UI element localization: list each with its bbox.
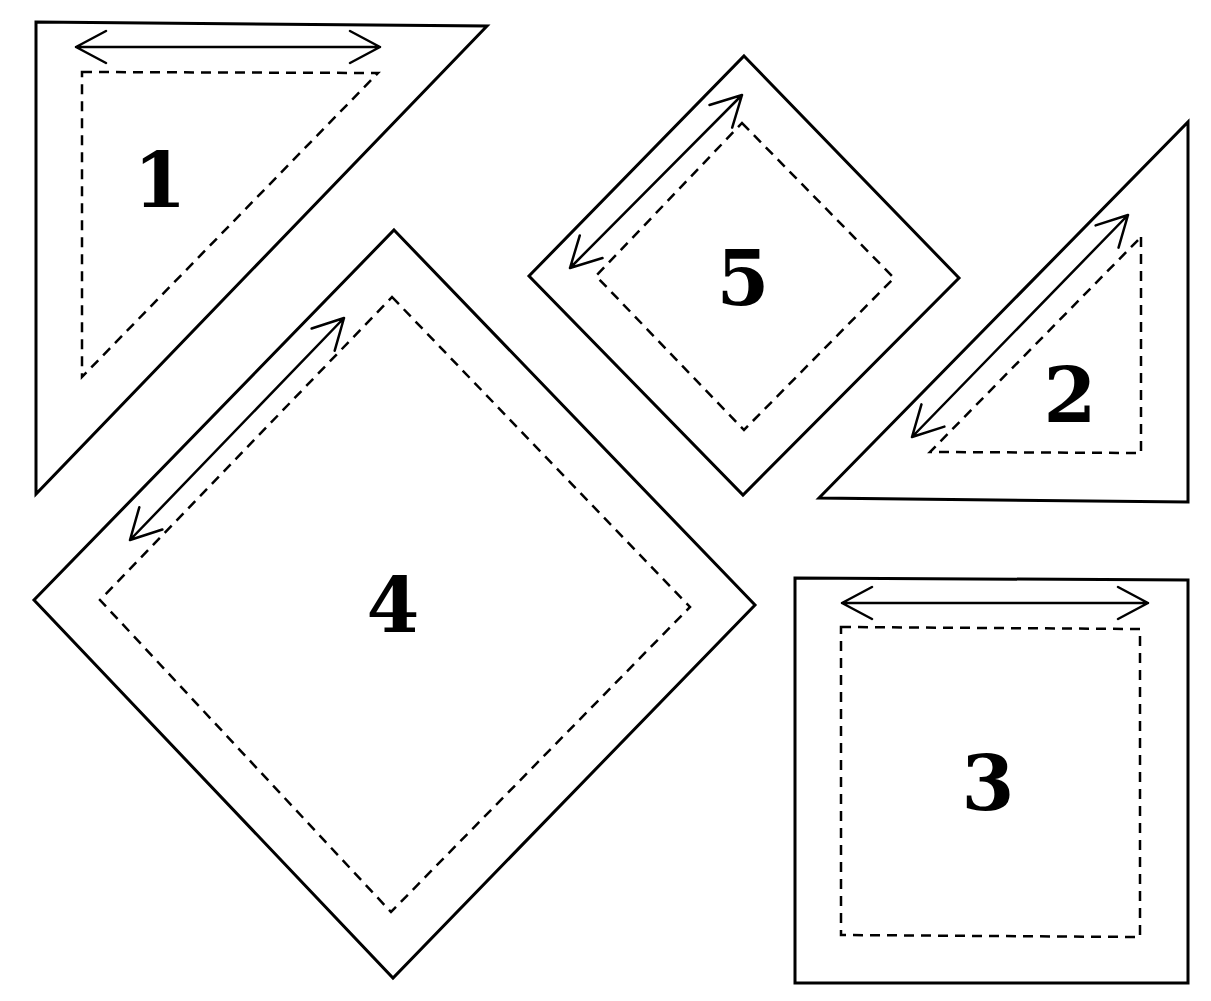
grain-line-arrow-icon bbox=[130, 318, 344, 540]
piece-number-label: 5 bbox=[717, 234, 770, 323]
seam-line bbox=[82, 72, 378, 377]
piece-number-label: 2 bbox=[1044, 351, 1097, 440]
piece-number-label: 4 bbox=[367, 561, 420, 650]
piece-number-label: 1 bbox=[134, 136, 187, 225]
piece-3: 3 bbox=[795, 578, 1188, 983]
piece-4: 4 bbox=[34, 230, 755, 978]
quilt-template-diagram: 12345 bbox=[0, 0, 1211, 1001]
grain-line-arrow-icon bbox=[76, 31, 380, 63]
seam-line bbox=[930, 237, 1141, 453]
piece-2: 2 bbox=[819, 122, 1188, 502]
grain-line-arrow-icon bbox=[842, 587, 1148, 619]
cutting-line bbox=[819, 122, 1188, 502]
piece-number-label: 3 bbox=[962, 739, 1015, 828]
piece-5: 5 bbox=[529, 56, 959, 495]
